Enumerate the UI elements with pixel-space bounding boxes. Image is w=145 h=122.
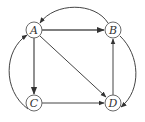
- node-c: C: [26, 95, 42, 111]
- edge-b-to-a-curved: [40, 7, 108, 23]
- node-d-label: D: [108, 97, 118, 110]
- edge-c-to-a-curved: [9, 35, 28, 109]
- node-a: A: [26, 22, 42, 38]
- graph-diagram: A B C D: [0, 0, 145, 122]
- node-a-label: A: [29, 24, 38, 37]
- node-b: B: [105, 22, 121, 38]
- node-d: D: [105, 95, 121, 111]
- edge-b-to-d-curved: [120, 36, 136, 107]
- node-c-label: C: [30, 97, 39, 110]
- node-b-label: B: [108, 24, 117, 37]
- edge-a-to-d: [40, 36, 106, 97]
